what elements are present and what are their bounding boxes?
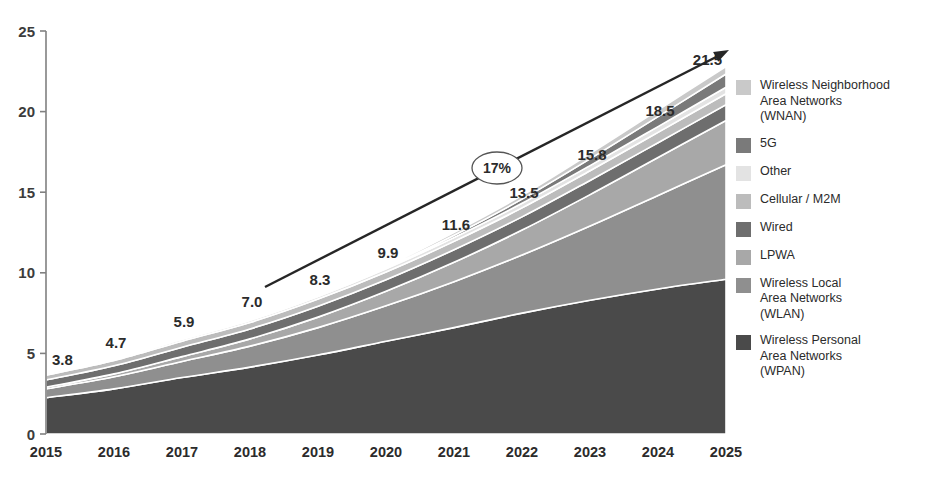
legend-item-label: Wireless Local Area Networks (WLAN) <box>760 276 842 323</box>
legend-item[interactable]: LPWA <box>736 248 931 265</box>
x-axis-tick-label: 2017 <box>166 444 198 460</box>
legend-item-label: Cellular / M2M <box>760 192 841 208</box>
legend-swatch-icon <box>736 138 751 153</box>
data-value-label: 8.3 <box>310 271 331 288</box>
chart-canvas: 0510152025 20152016201720182019202020212… <box>0 0 933 477</box>
x-axis-tick-label: 2023 <box>574 444 606 460</box>
x-axis-tick-labels: 2015201620172018201920202021202220232024… <box>30 444 742 460</box>
data-value-label: 13.5 <box>509 184 538 201</box>
y-axis-tick-labels: 0510152025 <box>18 23 35 443</box>
y-axis-tick-label: 5 <box>27 345 35 362</box>
legend-swatch-icon <box>736 335 751 350</box>
legend-item[interactable]: 5G <box>736 136 931 153</box>
x-axis-tick-label: 2016 <box>98 444 130 460</box>
data-value-label: 7.0 <box>242 293 263 310</box>
legend-item-label: LPWA <box>760 248 795 264</box>
legend-item[interactable]: Wireless Personal Area Networks (WPAN) <box>736 333 931 380</box>
legend-item-label: Wireless Personal Area Networks (WPAN) <box>760 333 861 380</box>
legend-swatch-icon <box>736 250 751 265</box>
legend-swatch-icon <box>736 222 751 237</box>
x-axis-tick-label: 2020 <box>370 444 402 460</box>
x-axis-tick-label: 2025 <box>710 444 742 460</box>
y-axis-tick-label: 20 <box>18 103 35 120</box>
x-axis-tick-label: 2018 <box>234 444 266 460</box>
data-value-label: 11.6 <box>442 216 470 233</box>
y-axis-tick-label: 0 <box>27 426 35 443</box>
x-axis-tick-label: 2015 <box>30 444 62 460</box>
legend-swatch-icon <box>736 194 751 209</box>
data-value-label: 15.8 <box>577 146 606 163</box>
legend-item[interactable]: Cellular / M2M <box>736 192 931 209</box>
legend-swatch-icon <box>736 80 751 95</box>
x-axis-tick-label: 2022 <box>506 444 538 460</box>
data-value-label: 9.9 <box>378 244 399 261</box>
legend-swatch-icon <box>736 166 751 181</box>
cagr-label-text: 17% <box>483 160 512 176</box>
legend-item-label: 5G <box>760 136 777 152</box>
y-axis-tick-label: 15 <box>18 184 35 201</box>
x-axis-tick-label: 2024 <box>642 444 674 460</box>
legend-item-label: Wired <box>760 220 793 236</box>
data-value-label: 4.7 <box>106 334 127 351</box>
y-axis-tick-label: 10 <box>18 264 35 281</box>
y-axis-tick-label: 25 <box>18 23 35 40</box>
axis-group <box>40 31 46 434</box>
legend-swatch-icon <box>736 278 751 293</box>
legend-item[interactable]: Wired <box>736 220 931 237</box>
data-value-label: 18.5 <box>645 102 674 119</box>
chart-legend: Wireless Neighborhood Area Networks (WNA… <box>736 78 931 391</box>
data-value-label: 3.8 <box>52 351 73 368</box>
legend-item[interactable]: Wireless Neighborhood Area Networks (WNA… <box>736 78 931 125</box>
x-axis-tick-label: 2019 <box>302 444 334 460</box>
legend-item-label: Other <box>760 164 791 180</box>
legend-item[interactable]: Wireless Local Area Networks (WLAN) <box>736 276 931 323</box>
legend-item-label: Wireless Neighborhood Area Networks (WNA… <box>760 78 890 125</box>
data-value-label: 5.9 <box>174 313 195 330</box>
x-axis-tick-label: 2021 <box>438 444 470 460</box>
legend-item[interactable]: Other <box>736 164 931 181</box>
